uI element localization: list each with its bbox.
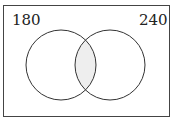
right-set-label: 240	[139, 13, 168, 28]
left-set-label: 180	[12, 13, 41, 28]
